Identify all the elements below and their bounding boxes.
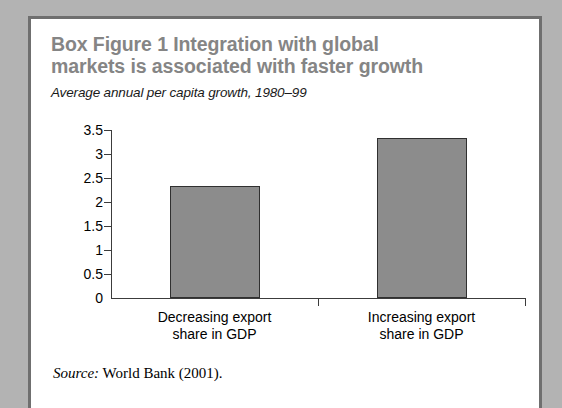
y-tick-label: 3.5 xyxy=(84,123,103,137)
x-tick-mark xyxy=(525,298,526,306)
y-tick-mark xyxy=(104,178,112,179)
bar xyxy=(170,186,260,298)
y-axis-line xyxy=(111,130,112,298)
y-axis-tick-labels: 00.511.522.533.5 xyxy=(51,123,103,298)
y-tick-mark xyxy=(104,226,112,227)
y-tick-mark xyxy=(104,130,112,131)
x-category-label: Increasing export share in GDP xyxy=(318,309,525,343)
y-tick-mark xyxy=(104,154,112,155)
y-tick-label: 2 xyxy=(95,195,103,209)
figure-panel: Box Figure 1 Integration with global mar… xyxy=(28,16,542,408)
bar xyxy=(377,138,467,298)
source-note: Source: World Bank (2001). xyxy=(53,365,223,382)
x-tick-mark xyxy=(318,298,319,306)
plot-area: 00.511.522.533.5 Decreasing export share… xyxy=(51,123,531,323)
source-text: World Bank (2001). xyxy=(99,365,223,381)
y-tick-mark xyxy=(104,274,112,275)
figure-content: Box Figure 1 Integration with global mar… xyxy=(31,19,539,408)
y-tick-label: 0.5 xyxy=(84,267,103,281)
chart-title: Box Figure 1 Integration with global mar… xyxy=(51,33,523,77)
x-category-label: Decreasing export share in GDP xyxy=(111,309,318,343)
chart-subtitle: Average annual per capita growth, 1980–9… xyxy=(51,85,523,101)
y-tick-label: 1.5 xyxy=(84,219,103,233)
y-tick-label: 3 xyxy=(95,147,103,161)
y-tick-label: 0 xyxy=(95,291,103,305)
y-tick-label: 1 xyxy=(95,243,103,257)
y-tick-label: 2.5 xyxy=(84,171,103,185)
y-tick-mark xyxy=(104,250,112,251)
source-label: Source: xyxy=(53,365,99,381)
y-tick-mark xyxy=(104,202,112,203)
